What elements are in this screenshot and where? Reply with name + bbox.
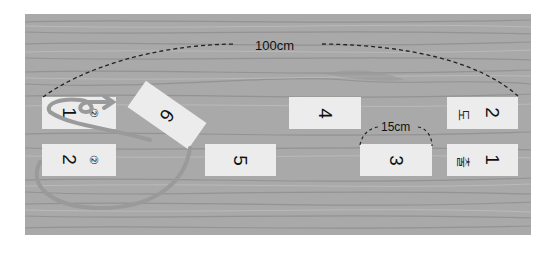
box-number: 1	[483, 154, 502, 165]
box-number: 2	[60, 154, 79, 165]
hopscotch-box-1-right: 출 1	[447, 144, 518, 176]
box-korean-label: 출	[455, 156, 474, 168]
box-width-label: 15cm	[381, 120, 410, 134]
box-number: 3	[386, 155, 405, 166]
hopscotch-box-2-left: 2 ②	[42, 144, 116, 176]
box-marker: ②	[87, 108, 100, 118]
hopscotch-box-2-right: 도 2	[447, 97, 518, 129]
box-number: 6	[156, 105, 178, 125]
box-number: 2	[483, 107, 502, 118]
box-marker: ②	[87, 155, 100, 165]
box-number: 1	[60, 107, 79, 118]
box-korean-label: 도	[455, 109, 474, 121]
hopscotch-box-5: 5	[205, 144, 276, 176]
total-length-label: 100cm	[255, 38, 294, 53]
box-number: 5	[231, 155, 250, 166]
hopscotch-box-3: 3	[360, 144, 432, 176]
hopscotch-box-4: 4	[289, 97, 361, 129]
box-number: 4	[315, 108, 334, 119]
hopscotch-box-1-left: 1 ②	[42, 97, 116, 129]
